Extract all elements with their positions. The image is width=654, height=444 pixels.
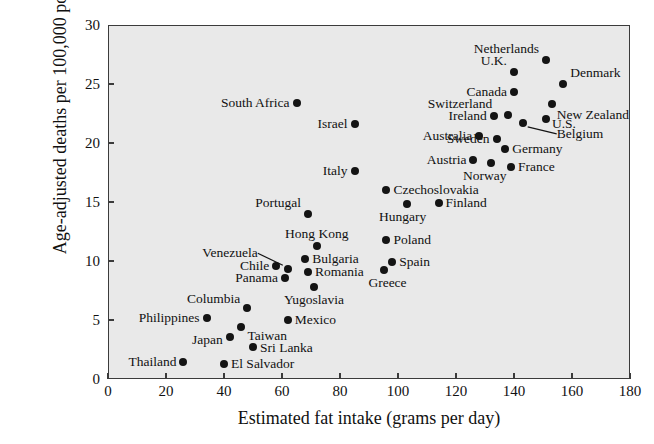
data-point-label: Germany: [512, 142, 562, 156]
data-point: [304, 210, 312, 218]
x-tick-label: 0: [104, 383, 112, 400]
data-point: [504, 111, 512, 119]
data-point-label: Israel: [318, 117, 348, 131]
y-tick-label: 15: [85, 194, 100, 211]
y-tick-label: 20: [85, 135, 100, 152]
data-point-label: Hong Kong: [285, 227, 348, 241]
y-tick: [108, 201, 114, 203]
data-point-label: Hungary: [379, 211, 426, 225]
x-tick: [165, 373, 167, 379]
data-point-label: Portugal: [255, 196, 301, 210]
data-point: [548, 100, 556, 108]
x-tick-label: 160: [561, 383, 584, 400]
data-point: [313, 242, 321, 250]
data-point: [490, 112, 498, 120]
x-axis-title: Estimated fat intake (grams per day): [108, 408, 630, 429]
data-point-label: Poland: [393, 233, 431, 247]
data-point-label: Spain: [399, 255, 430, 269]
data-point: [487, 159, 495, 167]
data-point-label: Denmark: [570, 66, 620, 80]
data-point-label: Yugoslavia: [284, 293, 344, 307]
data-point: [380, 266, 388, 274]
data-point-label: South Africa: [221, 96, 290, 110]
data-point: [435, 199, 443, 207]
data-point-label: Romania: [315, 265, 364, 279]
x-tick-label: 100: [387, 383, 410, 400]
scatter-plot-figure: 020406080100120140160180051015202530 Net…: [0, 0, 654, 444]
data-point: [220, 360, 228, 368]
data-point: [293, 99, 301, 107]
data-point-label: Greece: [368, 277, 406, 291]
x-tick: [339, 373, 341, 379]
data-point-label: Sri Lanka: [260, 341, 313, 355]
data-point-label: France: [518, 160, 555, 174]
y-axis-title: Age-adjusted deaths per 100,000 populati…: [49, 0, 71, 272]
y-tick: [108, 260, 114, 262]
data-point-label: Ireland: [448, 109, 486, 123]
data-point: [507, 163, 515, 171]
x-tick: [397, 373, 399, 379]
data-point-label: El Salvador: [231, 357, 294, 371]
data-point: [519, 119, 527, 127]
y-tick-label: 5: [93, 312, 101, 329]
x-tick: [107, 373, 109, 379]
data-point: [304, 268, 312, 276]
data-point-label: Austria: [427, 153, 467, 167]
data-point: [203, 314, 211, 322]
x-tick: [223, 373, 225, 379]
data-point: [301, 255, 309, 263]
x-tick: [455, 373, 457, 379]
data-point-label: Panama: [235, 271, 278, 285]
data-point-label: Venezuela: [202, 247, 257, 261]
y-tick-label: 25: [85, 76, 100, 93]
data-point-label: Finland: [446, 196, 487, 210]
y-tick-label: 0: [93, 371, 101, 388]
data-point-label: Australia: [423, 129, 473, 143]
y-tick-label: 30: [85, 17, 100, 34]
x-tick-label: 60: [275, 383, 290, 400]
data-point-label: Belgium: [557, 127, 604, 141]
data-point-label: Norway: [463, 169, 507, 183]
data-point-label: Philippines: [139, 311, 200, 325]
y-tick: [108, 83, 114, 85]
y-tick: [108, 142, 114, 144]
x-tick: [513, 373, 515, 379]
x-tick-label: 40: [217, 383, 232, 400]
data-point: [351, 120, 359, 128]
data-point: [284, 316, 292, 324]
x-tick-label: 80: [333, 383, 348, 400]
data-point-label: U.K.: [481, 54, 507, 68]
data-point: [351, 167, 359, 175]
x-tick-label: 120: [445, 383, 468, 400]
data-point-label: Columbia: [187, 292, 240, 306]
data-point: [469, 156, 477, 164]
x-tick: [571, 373, 573, 379]
y-tick-label: 10: [85, 253, 100, 270]
x-tick-label: 20: [159, 383, 174, 400]
x-tick: [629, 373, 631, 379]
data-point: [272, 262, 280, 270]
data-point-label: Italy: [323, 165, 348, 179]
data-point: [281, 274, 289, 282]
data-point-label: Thailand: [128, 356, 176, 370]
x-tick: [281, 373, 283, 379]
data-point: [226, 333, 234, 341]
y-tick: [108, 319, 114, 321]
x-tick-label: 140: [503, 383, 526, 400]
x-tick-label: 180: [619, 383, 642, 400]
data-point-label: Mexico: [295, 313, 336, 327]
plot-area: [108, 25, 630, 379]
data-point: [310, 283, 318, 291]
data-point-label: Japan: [192, 333, 223, 347]
